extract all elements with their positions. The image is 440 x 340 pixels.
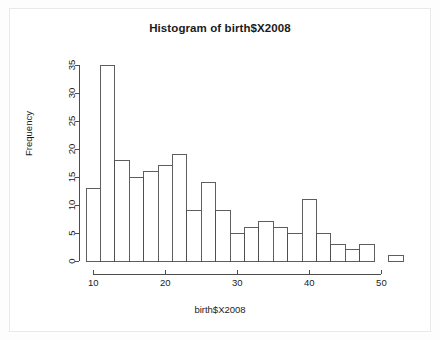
x-tick-label: 40 <box>304 277 315 288</box>
y-tick-label: 0 <box>66 258 77 263</box>
histogram-bar <box>86 188 100 261</box>
histogram-bar <box>172 155 186 261</box>
histogram-bar <box>129 177 143 261</box>
bars-group <box>86 65 403 261</box>
y-tick-label: 35 <box>66 60 77 71</box>
histogram-bar <box>245 227 259 261</box>
histogram-bar <box>115 160 129 261</box>
histogram-bar <box>288 233 302 261</box>
histogram-bar <box>259 222 273 261</box>
histogram-bar <box>144 171 158 261</box>
x-tick-label: 30 <box>232 277 243 288</box>
histogram-bar <box>230 233 244 261</box>
histogram-bar <box>201 183 215 261</box>
y-tick-label: 15 <box>66 172 77 183</box>
histogram-bar <box>273 227 287 261</box>
y-tick-label: 25 <box>66 116 77 127</box>
screenshot-canvas: Histogram of birth$X2008 Frequency birth… <box>0 0 440 340</box>
y-tick-label: 10 <box>66 200 77 211</box>
y-tick-label: 30 <box>66 88 77 99</box>
histogram-bar <box>345 250 359 261</box>
histogram-bar <box>317 233 331 261</box>
histogram-plot: 05101520253035 1020304050 <box>0 0 440 340</box>
x-tick-label: 10 <box>88 277 99 288</box>
histogram-bar <box>158 166 172 261</box>
y-tick-label: 20 <box>66 144 77 155</box>
y-tick-label: 5 <box>66 230 77 235</box>
y-axis: 05101520253035 <box>66 60 80 264</box>
x-axis: 1020304050 <box>88 270 387 288</box>
histogram-bar <box>331 244 345 261</box>
histogram-bar <box>360 244 374 261</box>
histogram-bar <box>100 65 114 261</box>
histogram-bar <box>389 255 403 261</box>
histogram-bar <box>187 211 201 261</box>
x-tick-label: 50 <box>376 277 387 288</box>
x-tick-label: 20 <box>160 277 171 288</box>
histogram-bar <box>302 199 316 261</box>
histogram-bar <box>216 211 230 261</box>
